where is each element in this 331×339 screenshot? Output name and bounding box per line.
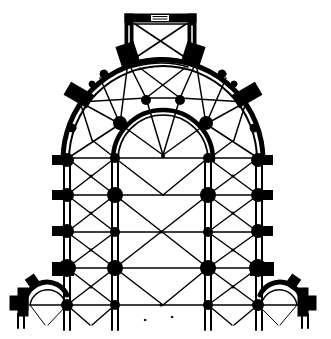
corner-chapel-right bbox=[258, 274, 316, 328]
diagonal-ribs-aisles bbox=[67, 158, 258, 325]
floor-plan-diagram bbox=[0, 0, 331, 339]
corner-chapel-left bbox=[10, 274, 67, 328]
piers bbox=[52, 95, 274, 311]
